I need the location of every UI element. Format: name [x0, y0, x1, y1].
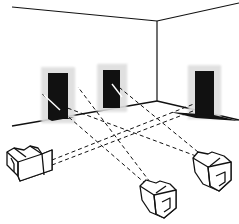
doorway-3: [170, 65, 239, 121]
sight-line: [52, 103, 214, 165]
illustration: [0, 0, 239, 224]
doorway-2: [97, 64, 127, 112]
device-center: [140, 180, 176, 218]
ceiling-left-line: [12, 7, 157, 21]
doorways: [41, 64, 239, 123]
doorway-1: [41, 67, 75, 123]
floor-left-line: [12, 101, 157, 126]
device-right: [193, 152, 231, 191]
sight-line: [120, 88, 198, 152]
room-scene: [0, 0, 239, 224]
ceiling-right-line: [157, 3, 239, 21]
device-left: [7, 146, 52, 181]
